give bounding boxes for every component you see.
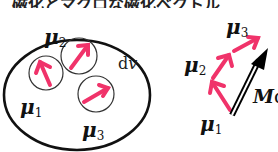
magnetization-label: Md — [253, 87, 278, 106]
right-mu1-label: μ1 — [200, 114, 222, 136]
right-mu3-label: μ3 — [226, 17, 248, 39]
volume-element-label: dv — [118, 54, 137, 73]
left-mu2-label: μ2 — [44, 27, 66, 49]
right-mu2-label: μ2 — [184, 55, 206, 77]
left-mu1-label: μ1 — [20, 97, 42, 119]
left-mu3-label: μ3 — [82, 120, 104, 142]
